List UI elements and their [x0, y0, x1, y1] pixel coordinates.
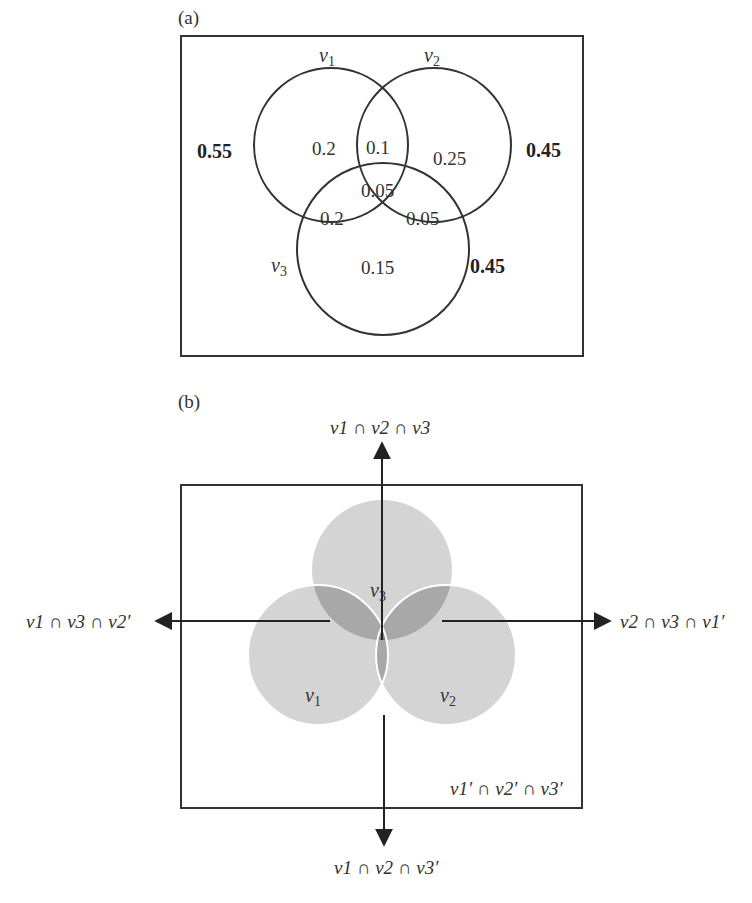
region-v3-only: 0.15: [361, 257, 394, 278]
arrow-label-top: v1 ∩ v2 ∩ v3: [330, 417, 430, 438]
region-v1-only: 0.2: [312, 138, 336, 159]
region-v1-v2: 0.1: [366, 137, 390, 158]
label-v1: v1: [319, 44, 335, 69]
arrow-label-bottom: v1 ∩ v2 ∩ v3′: [334, 857, 439, 878]
label-v2: v2: [424, 44, 440, 69]
total-v1: 0.55: [197, 140, 232, 162]
venn-figure: (a) v1 v2 v3 0.55 0.45 0.45 0.2 0.1 0.25…: [0, 0, 752, 903]
panel-a: (a) v1 v2 v3 0.55 0.45 0.45 0.2 0.1 0.25…: [178, 7, 583, 356]
label-v3: v3: [271, 254, 287, 279]
arrow-label-right: v2 ∩ v3 ∩ v1′: [620, 611, 725, 632]
panel-a-label: (a): [178, 7, 199, 29]
total-v2: 0.45: [526, 139, 561, 161]
panel-b: (b) v3 v1 v2 v1 ∩ v2 ∩ v3 v1 ∩ v3 ∩ v2′ …: [26, 391, 725, 878]
region-v1-v3: 0.2: [320, 208, 344, 229]
total-v3: 0.45: [470, 255, 505, 277]
region-v2-v3: 0.05: [406, 208, 439, 229]
region-v1-v2-v3: 0.05: [361, 180, 394, 201]
complement-label: v1′ ∩ v2′ ∩ v3′: [450, 778, 564, 799]
arrow-label-left: v1 ∩ v3 ∩ v2′: [26, 611, 131, 632]
panel-b-label: (b): [178, 391, 200, 413]
region-v2-only: 0.25: [433, 148, 466, 169]
